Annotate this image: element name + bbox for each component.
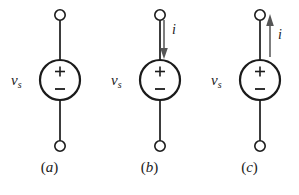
source-voltage-label-c: vs: [211, 73, 222, 90]
top-terminal-node-icon: [55, 10, 65, 20]
source-voltage-symbol: v: [11, 72, 18, 88]
caption-close-paren: ): [253, 159, 258, 175]
top-terminal-node-icon: [255, 10, 265, 20]
source-voltage-label-a: vs: [11, 73, 22, 90]
current-label-b: i: [172, 23, 176, 37]
source-voltage-symbol: v: [111, 72, 118, 88]
bottom-terminal-node-icon: [155, 141, 165, 151]
voltage-source-circle-icon: [140, 60, 180, 100]
source-voltage-subscript: s: [18, 79, 22, 90]
current-arrow-down-icon: [160, 20, 168, 59]
current-arrow-up-icon: [266, 14, 274, 57]
source-voltage-subscript: s: [218, 79, 222, 90]
figure-panel-b: vs i (b): [100, 0, 199, 195]
circuit-figure: vs (a) vs: [0, 0, 299, 195]
figure-panel-c: vs i (c): [200, 0, 299, 195]
caption-close-paren: ): [153, 159, 158, 175]
caption-letter: c: [246, 159, 253, 175]
panel-caption-a: (a): [0, 160, 99, 175]
voltage-source-circle-icon: [40, 60, 80, 100]
source-voltage-label-b: vs: [111, 73, 122, 90]
source-voltage-subscript: s: [118, 79, 122, 90]
top-terminal-node-icon: [155, 10, 165, 20]
current-label-c: i: [278, 28, 282, 42]
bottom-terminal-node-icon: [255, 141, 265, 151]
panel-caption-c: (c): [200, 160, 299, 175]
panel-caption-b: (b): [100, 160, 199, 175]
voltage-source-circle-icon: [240, 60, 280, 100]
figure-panel-a: vs (a): [0, 0, 99, 195]
source-voltage-symbol: v: [211, 72, 218, 88]
caption-close-paren: ): [53, 159, 58, 175]
bottom-terminal-node-icon: [55, 141, 65, 151]
